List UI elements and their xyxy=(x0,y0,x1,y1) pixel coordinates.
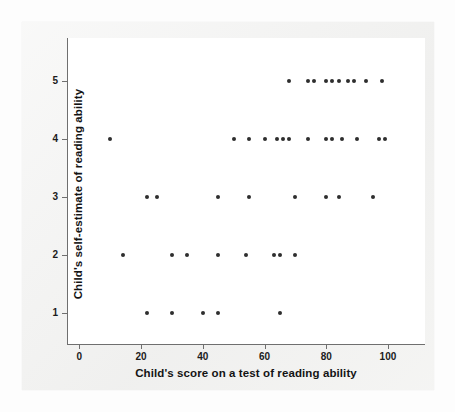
data-points-layer xyxy=(0,0,455,412)
data-point xyxy=(216,311,220,315)
data-point xyxy=(371,195,375,199)
data-point xyxy=(306,79,310,83)
data-point xyxy=(324,137,328,141)
data-point xyxy=(247,137,251,141)
x-axis-title: Child's score on a test of reading abili… xyxy=(67,367,425,379)
data-point xyxy=(287,137,291,141)
data-point xyxy=(155,195,159,199)
data-point xyxy=(281,137,285,141)
data-point xyxy=(346,79,350,83)
data-point xyxy=(337,195,341,199)
y-axis-title: Child's self-estimate of reading ability xyxy=(72,44,84,344)
data-point xyxy=(278,311,282,315)
data-point xyxy=(145,311,149,315)
data-point xyxy=(121,253,125,257)
scatter-plot-figure: 02040608010012345 Child's score on a tes… xyxy=(0,0,455,412)
data-point xyxy=(232,137,236,141)
data-point xyxy=(380,79,384,83)
data-point xyxy=(244,253,248,257)
data-point xyxy=(330,79,334,83)
data-point xyxy=(364,79,368,83)
data-point xyxy=(352,79,356,83)
data-point xyxy=(247,195,251,199)
data-point xyxy=(312,79,316,83)
data-point xyxy=(272,253,276,257)
data-point xyxy=(185,253,189,257)
data-point xyxy=(377,137,381,141)
data-point xyxy=(275,137,279,141)
data-point xyxy=(293,253,297,257)
data-point xyxy=(170,253,174,257)
data-point xyxy=(337,79,341,83)
data-point xyxy=(324,79,328,83)
data-point xyxy=(306,137,310,141)
data-point xyxy=(145,195,149,199)
data-point xyxy=(355,137,359,141)
data-point xyxy=(324,195,328,199)
data-point xyxy=(170,311,174,315)
data-point xyxy=(278,253,282,257)
data-point xyxy=(216,253,220,257)
data-point xyxy=(201,311,205,315)
data-point xyxy=(340,137,344,141)
data-point xyxy=(330,137,334,141)
data-point xyxy=(263,137,267,141)
data-point xyxy=(108,137,112,141)
data-point xyxy=(216,195,220,199)
data-point xyxy=(287,79,291,83)
data-point xyxy=(383,137,387,141)
data-point xyxy=(293,195,297,199)
